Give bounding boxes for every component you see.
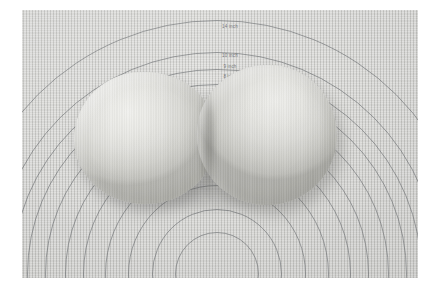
dough-ball-right (197, 65, 337, 205)
dough-seam-shadow (204, 88, 214, 200)
dough-surface-texture-right (197, 65, 337, 205)
ring-label-14-inch: 14 inch (222, 24, 238, 29)
dough-ball-left (74, 72, 216, 204)
ring-label-9-inch: 9 inch (223, 64, 236, 69)
ring-label-10-inch: 10 inch (222, 53, 238, 58)
screenshot-canvas: 14 inch 10 inch 9 inch 8 inch 7 inch 6 i… (0, 0, 425, 297)
dough-surface-texture-left (74, 72, 216, 204)
photograph: 14 inch 10 inch 9 inch 8 inch 7 inch 6 i… (22, 10, 418, 278)
